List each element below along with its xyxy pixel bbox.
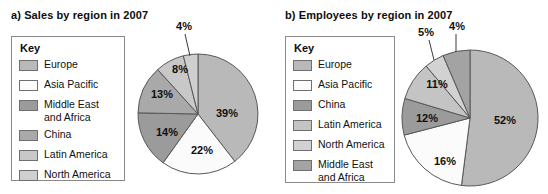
- legend-label-middle-east-africa: Middle East and Africa: [318, 158, 373, 183]
- legend-swatch-north-america: [19, 170, 38, 181]
- page-title-sales: a) Sales by region in 2007: [11, 9, 148, 21]
- legend-list-sales: Europe Asia Pacific Middle East and Afri…: [19, 58, 121, 188]
- pie-value-china: 13%: [151, 88, 173, 100]
- pie-value-europe: 39%: [216, 107, 238, 119]
- pie-svg-sales: 39% 22% 14% 13% 8% 4%: [132, 18, 272, 186]
- pie-value-north-america: 5%: [418, 26, 434, 38]
- legend-item-china: China: [19, 128, 121, 146]
- legend-swatch-europe: [293, 60, 312, 71]
- pie-chart-sales: 39% 22% 14% 13% 8% 4%: [132, 18, 272, 186]
- pie-value-latin-america: 8%: [172, 63, 188, 75]
- leader-line-north-america: [429, 40, 434, 60]
- legend-item-asia-pacific: Asia Pacific: [293, 78, 391, 96]
- legend-swatch-latin-america: [293, 120, 312, 131]
- legend-item-latin-america: Latin America: [19, 148, 121, 166]
- legend-item-asia-pacific: Asia Pacific: [19, 78, 121, 96]
- legend-label-north-america: North America: [318, 138, 385, 151]
- chart-panel-employees: b) Employees by region in 2007 Key Europ…: [274, 0, 548, 194]
- legend-title-employees: Key: [294, 42, 314, 54]
- leader-line-north-america: [185, 34, 190, 56]
- legend-swatch-middle-east-africa: [293, 160, 312, 171]
- legend-label-latin-america: Latin America: [318, 118, 382, 131]
- legend-label-china: China: [318, 98, 345, 111]
- legend-item-north-america: North America: [293, 138, 391, 156]
- pie-value-middle-east-africa: 14%: [156, 126, 178, 138]
- pie-svg-employees: 52% 16% 12% 11% 5% 4%: [400, 18, 548, 190]
- legend-list-employees: Europe Asia Pacific China Latin America …: [293, 58, 391, 188]
- legend-swatch-latin-america: [19, 150, 38, 161]
- legend-label-europe: Europe: [318, 58, 352, 71]
- legend-swatch-china: [19, 130, 38, 141]
- chart-panel-sales: a) Sales by region in 2007 Key Europe As…: [0, 0, 274, 194]
- legend-employees: Key Europe Asia Pacific China Latin Amer…: [285, 36, 395, 183]
- legend-label-asia-pacific: Asia Pacific: [318, 78, 372, 91]
- pie-value-europe: 52%: [494, 114, 516, 126]
- legend-item-middle-east-africa: Middle East and Africa: [19, 98, 121, 126]
- legend-item-latin-america: Latin America: [293, 118, 391, 136]
- legend-swatch-asia-pacific: [19, 80, 38, 91]
- legend-label-china: China: [44, 128, 71, 141]
- legend-label-asia-pacific: Asia Pacific: [44, 78, 98, 91]
- legend-label-europe: Europe: [44, 58, 78, 71]
- legend-label-middle-east-africa: Middle East and Africa: [44, 98, 99, 123]
- legend-swatch-china: [293, 100, 312, 111]
- pie-value-middle-east-africa: 4%: [449, 20, 465, 32]
- legend-item-china: China: [293, 98, 391, 116]
- legend-swatch-north-america: [293, 140, 312, 151]
- legend-item-north-america: North America: [19, 168, 121, 186]
- pie-value-asia-pacific: 16%: [434, 155, 456, 167]
- pie-value-china: 12%: [416, 112, 438, 124]
- legend-swatch-asia-pacific: [293, 80, 312, 91]
- pie-value-north-america: 4%: [176, 20, 192, 32]
- legend-label-latin-america: Latin America: [44, 148, 108, 161]
- pie-chart-employees: 52% 16% 12% 11% 5% 4%: [400, 18, 548, 190]
- legend-title-sales: Key: [20, 42, 40, 54]
- legend-item-europe: Europe: [293, 58, 391, 76]
- legend-item-middle-east-africa: Middle East and Africa: [293, 158, 391, 186]
- legend-sales: Key Europe Asia Pacific Middle East and …: [11, 36, 125, 181]
- pie-value-latin-america: 11%: [426, 78, 448, 90]
- legend-label-north-america: North America: [44, 168, 111, 181]
- legend-swatch-europe: [19, 60, 38, 71]
- legend-item-europe: Europe: [19, 58, 121, 76]
- legend-swatch-middle-east-africa: [19, 100, 38, 111]
- pie-value-asia-pacific: 22%: [191, 144, 213, 156]
